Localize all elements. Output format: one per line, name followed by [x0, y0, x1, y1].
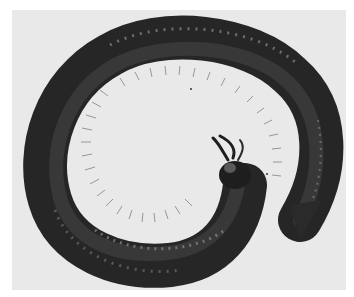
millipede-photo	[12, 10, 346, 290]
millipede-illustration	[12, 10, 346, 290]
image-frame	[0, 0, 354, 297]
